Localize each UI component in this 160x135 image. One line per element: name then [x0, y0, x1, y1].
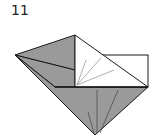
origami-fold-illustration [0, 0, 160, 135]
origami-step-diagram: 11 [0, 0, 160, 135]
